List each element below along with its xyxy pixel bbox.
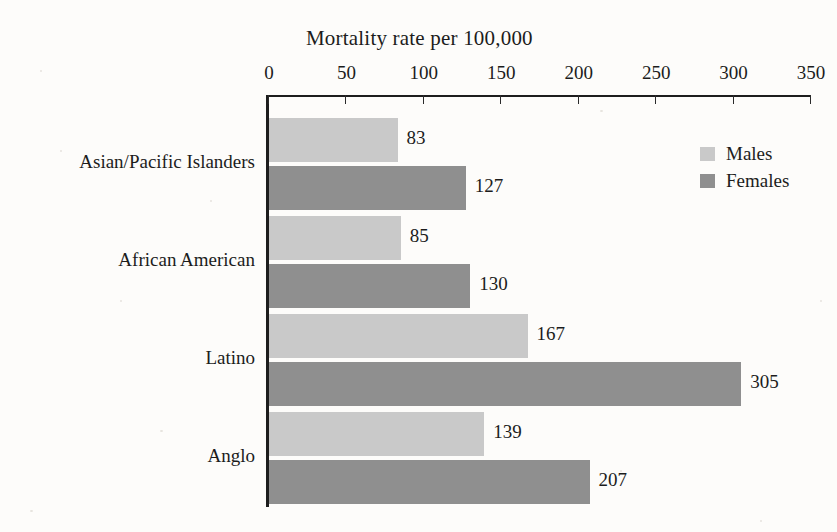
chart-title: Mortality rate per 100,000	[306, 26, 533, 51]
scan-speckle	[760, 520, 762, 522]
scan-speckle	[600, 110, 603, 112]
bar-males	[269, 314, 528, 358]
x-axis-tick-label: 150	[487, 62, 516, 84]
bar-males	[269, 118, 398, 162]
x-axis-tick-label: 250	[642, 62, 671, 84]
bar-value-label: 130	[479, 273, 508, 295]
bar-value-label: 207	[599, 469, 628, 491]
scan-speckle	[30, 510, 33, 512]
legend-label-females: Females	[726, 170, 789, 192]
x-axis-tick	[655, 95, 656, 104]
bar-value-label: 85	[410, 225, 429, 247]
x-axis-tick	[268, 95, 269, 104]
legend-swatch-females-icon	[700, 174, 715, 188]
scan-speckle	[820, 300, 822, 302]
bar-chart: Mortality rate per 100,000 0501001502002…	[0, 0, 837, 532]
x-axis-tick	[423, 95, 424, 104]
bar-value-label: 83	[407, 127, 426, 149]
category-label: Asian/Pacific Islanders	[79, 151, 255, 173]
x-axis-tick	[345, 95, 346, 104]
x-axis-tick	[733, 95, 734, 104]
bar-females	[269, 362, 741, 406]
bar-females	[269, 264, 470, 308]
x-axis-line	[267, 95, 811, 97]
bar-value-label: 167	[537, 323, 566, 345]
x-axis-tick	[500, 95, 501, 104]
bar-males	[269, 216, 401, 260]
x-axis-tick	[578, 95, 579, 104]
x-axis-tick-label: 0	[264, 62, 274, 84]
legend-swatch-males-icon	[700, 147, 715, 161]
scan-speckle	[40, 70, 42, 72]
bar-females	[269, 460, 590, 504]
bar-value-label: 127	[475, 175, 504, 197]
legend-item-males: Males	[700, 140, 789, 167]
bar-value-label: 139	[493, 421, 522, 443]
x-axis-tick	[810, 95, 811, 104]
scan-speckle	[160, 430, 163, 432]
x-axis-tick-label: 300	[719, 62, 748, 84]
scan-speckle	[60, 150, 62, 152]
bar-females	[269, 166, 466, 210]
scan-speckle	[210, 200, 212, 202]
category-label: Anglo	[208, 445, 256, 467]
x-axis-tick-label: 50	[337, 62, 356, 84]
legend-item-females: Females	[700, 167, 789, 194]
bar-value-label: 305	[750, 371, 779, 393]
scan-speckle	[120, 300, 122, 302]
bar-males	[269, 412, 484, 456]
legend-label-males: Males	[726, 143, 772, 165]
category-label: African American	[118, 249, 255, 271]
category-label: Latino	[205, 347, 255, 369]
x-axis-tick-label: 350	[797, 62, 826, 84]
legend: Males Females	[700, 140, 789, 194]
x-axis-tick-label: 100	[410, 62, 439, 84]
x-axis-tick-label: 200	[564, 62, 593, 84]
